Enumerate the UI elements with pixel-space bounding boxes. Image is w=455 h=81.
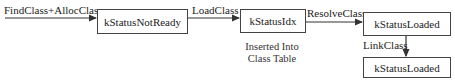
transition-label-linkclass: LinkClass	[363, 39, 408, 51]
transition-label-findclass-allocclass: FindClass+AllocClass	[4, 4, 103, 16]
state-box-loaded-final: kStatusLoaded	[363, 57, 451, 78]
state-label: kStatusIdx	[249, 15, 296, 27]
annotation-line-2: Class Table	[236, 53, 308, 65]
state-label: kStatusNotReady	[104, 16, 181, 28]
transition-label-loadclass: LoadClass	[192, 4, 238, 16]
transition-label-resolveclass: ResolveClass	[307, 7, 366, 19]
annotation-inserted-into-class-table: Inserted Into Class Table	[236, 41, 308, 65]
state-box-idx: kStatusIdx	[240, 9, 306, 33]
state-box-loaded: kStatusLoaded	[363, 12, 451, 36]
state-box-notready: kStatusNotReady	[97, 9, 188, 34]
state-label: kStatusLoaded	[374, 62, 439, 74]
annotation-line-1: Inserted Into	[236, 41, 308, 53]
state-label: kStatusLoaded	[374, 18, 439, 30]
